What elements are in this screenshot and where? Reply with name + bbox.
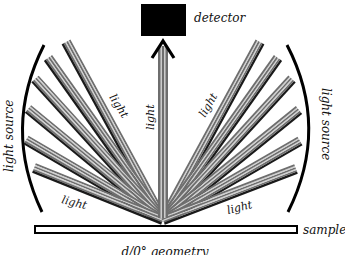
light-source-label-right: light source (319, 88, 333, 160)
sample-plate (35, 226, 297, 233)
light-source-arc-left (22, 45, 44, 212)
light-source-label-left: light source (2, 100, 16, 172)
sample-label: sample (303, 223, 345, 237)
light-source-arc-right (287, 45, 309, 212)
light-label-lower-left: light (60, 193, 89, 212)
light-label-vertical: light (144, 104, 157, 130)
detector-label: detector (194, 11, 246, 25)
light-label-lower-right: light (226, 198, 255, 217)
d0-geometry-diagram: detector sample light source light sourc… (0, 0, 345, 255)
detector-box (141, 4, 186, 36)
diagram-title: d/0° geometry (122, 245, 209, 255)
